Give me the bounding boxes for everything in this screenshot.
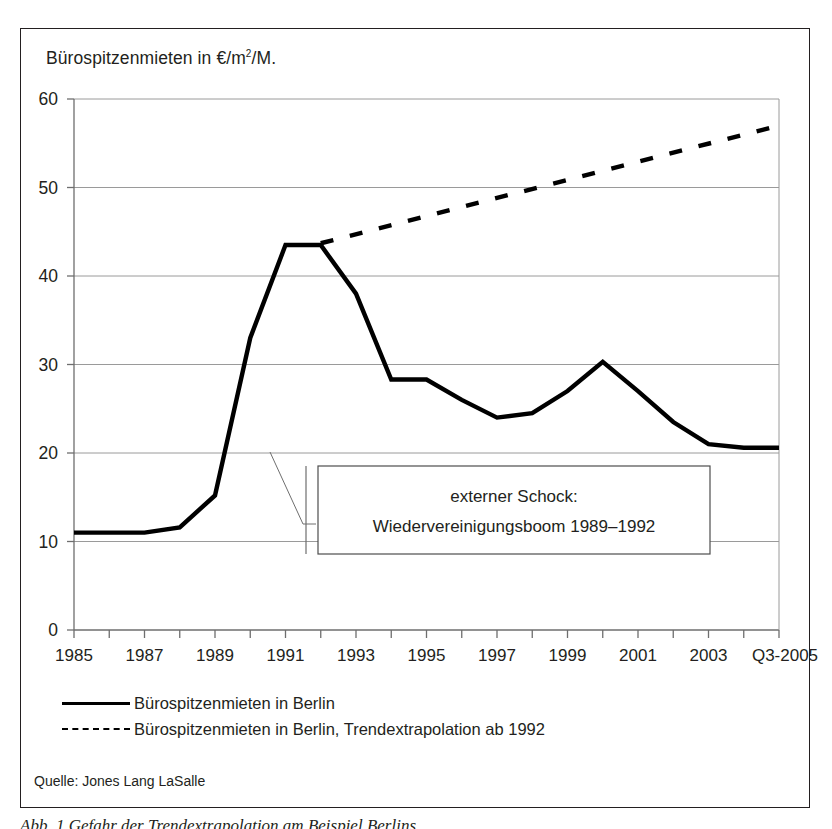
chart-title-main: Bürospitzenmieten in €/m [46, 48, 246, 68]
legend-label-dashed: Bürospitzenmieten in Berlin, Trendextrap… [134, 720, 545, 739]
figure-root: Bürospitzenmieten in €/m2/M. 01020304050… [0, 0, 832, 829]
legend-key-solid-line-icon [62, 696, 134, 710]
chart-legend: Bürospitzenmieten in Berlin Bürospitzenm… [62, 690, 762, 742]
legend-item-solid: Bürospitzenmieten in Berlin [62, 690, 762, 716]
source-note: Quelle: Jones Lang LaSalle [34, 773, 205, 789]
legend-key-dashed-line-icon [62, 722, 134, 736]
legend-label-solid: Bürospitzenmieten in Berlin [134, 694, 335, 713]
legend-item-dashed: Bürospitzenmieten in Berlin, Trendextrap… [62, 716, 762, 742]
chart-title: Bürospitzenmieten in €/m2/M. [46, 48, 276, 69]
chart-title-tail: /M. [252, 48, 277, 68]
figure-caption: Abb. 1 Gefahr der Trendextrapolation am … [20, 816, 416, 829]
